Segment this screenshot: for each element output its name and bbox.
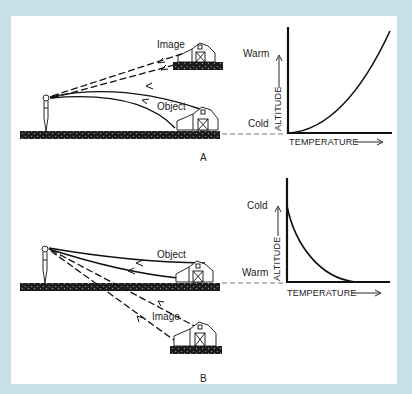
chart-top-label: Warm xyxy=(243,49,269,59)
barn-object-icon xyxy=(176,261,213,282)
chart-bottom-label: Warm xyxy=(242,268,268,278)
panel-caption-a: A xyxy=(200,153,207,163)
image-ground-strip xyxy=(173,62,223,70)
image-label: Image xyxy=(157,40,185,50)
observer-icon xyxy=(42,246,48,283)
barn-image-icon xyxy=(174,322,216,346)
mirage-diagram xyxy=(0,0,412,394)
panel-caption-b: B xyxy=(200,374,207,384)
image-ray-upper xyxy=(52,48,200,96)
x-axis-label: TEMPERATURE xyxy=(289,138,359,147)
y-axis-label: ALTITUDE xyxy=(273,237,282,281)
altitude-temperature-curve xyxy=(290,31,390,133)
ground-strip xyxy=(20,283,220,291)
panel-b-scene xyxy=(20,246,285,354)
altitude-temperature-curve xyxy=(287,206,355,282)
observer-icon xyxy=(43,95,49,131)
image-ray-lower xyxy=(51,251,178,343)
object-label: Object xyxy=(157,102,186,112)
x-axis-label: TEMPERATURE xyxy=(287,289,357,298)
object-label: Object xyxy=(157,250,186,260)
arrow-icon xyxy=(146,83,153,89)
chart-top-label: Cold xyxy=(247,201,268,211)
chart-a xyxy=(276,27,392,145)
arrow-icon xyxy=(142,99,149,104)
ground-strip xyxy=(20,131,220,139)
image-ground-strip xyxy=(170,346,222,354)
y-axis-label: ALTITUDE xyxy=(274,87,283,131)
chart-bottom-label: Cold xyxy=(248,119,269,129)
chart-b xyxy=(275,178,390,296)
image-label: Image xyxy=(152,312,180,322)
arrow-icon xyxy=(158,301,164,306)
arrow-icon xyxy=(136,260,143,266)
